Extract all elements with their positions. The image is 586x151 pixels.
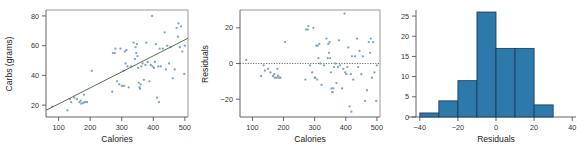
scatter-point	[180, 25, 182, 27]
y-tick-label: 20	[401, 32, 409, 41]
x-tick-label: 400	[340, 123, 352, 132]
scatter-point	[126, 65, 128, 67]
histogram-y-ticks: 0510152025	[401, 12, 416, 122]
residual-point	[341, 87, 343, 89]
residual-point	[335, 82, 337, 84]
scatter-point	[83, 94, 85, 96]
scatter-point	[150, 64, 152, 66]
x-tick-label: 100	[53, 123, 65, 132]
residual-point	[371, 77, 373, 79]
residual-point	[304, 78, 306, 80]
scatter-point	[134, 46, 136, 48]
scatter-point	[183, 73, 185, 75]
scatter-point	[146, 61, 148, 63]
residual-point	[368, 41, 370, 43]
scatter-point	[123, 85, 125, 87]
scatter-point	[144, 64, 146, 66]
scatter-point	[140, 83, 142, 85]
scatter-point	[145, 42, 147, 44]
residual-point	[347, 46, 349, 48]
histogram-bars	[420, 12, 553, 117]
residual-point	[339, 64, 341, 66]
residual-point	[319, 62, 321, 64]
scatter-point	[177, 22, 179, 24]
scatter-x-ticks: 100200300400500	[53, 117, 191, 132]
residual-point	[369, 52, 371, 54]
residual-point	[332, 87, 334, 89]
residual-y-ticks: −20020	[221, 23, 240, 103]
residual-point	[346, 66, 348, 68]
scatter-x-axis-title: Calories	[101, 134, 133, 144]
histogram-bar	[534, 105, 553, 117]
panel-scatter-carbs-vs-calories: 20406080 100200300400500 Carbs (grams) C…	[0, 0, 196, 151]
x-tick-label: 100	[246, 123, 258, 132]
residual-point	[328, 52, 330, 54]
residual-point	[312, 27, 314, 29]
residual-point	[332, 91, 334, 93]
scatter-point	[119, 47, 121, 49]
x-tick-label: 300	[309, 123, 321, 132]
scatter-point	[175, 27, 177, 29]
residual-point	[267, 68, 269, 70]
scatter-point	[136, 43, 138, 45]
residual-y-axis-title: Residuals	[200, 45, 210, 83]
residual-point	[348, 105, 350, 107]
scatter-point	[80, 100, 82, 102]
residual-point	[333, 66, 335, 68]
scatter-point	[160, 65, 162, 67]
histogram-bar	[420, 113, 439, 117]
scatter-point	[172, 77, 174, 79]
histogram-bar	[458, 81, 477, 117]
y-tick-label: 15	[401, 52, 409, 61]
residual-data-points	[245, 12, 378, 112]
residual-point	[337, 66, 339, 68]
y-tick-label: 20	[225, 23, 233, 32]
scatter-point	[158, 47, 160, 49]
scatter-point	[143, 79, 145, 81]
scatter-point	[140, 65, 142, 67]
residual-x-axis-title: Calories	[294, 134, 326, 144]
scatter-point	[181, 50, 183, 52]
scatter-point	[125, 49, 127, 51]
x-tick-label: 20	[530, 123, 538, 132]
residual-point	[279, 77, 281, 79]
scatter-point	[151, 15, 153, 17]
panel-residuals-vs-calories: −20020 100200300400500 Residuals Calorie…	[196, 0, 386, 151]
scatter-point	[148, 80, 150, 82]
scatter-plot-frame	[46, 10, 188, 117]
residual-point	[350, 73, 352, 75]
scatter-point	[138, 82, 140, 84]
scatter-point	[139, 88, 141, 90]
histogram-bar	[515, 48, 534, 117]
residual-point	[352, 78, 354, 80]
residual-point	[316, 78, 318, 80]
scatter-point	[116, 80, 118, 82]
residual-point	[345, 73, 347, 75]
x-tick-label: −40	[414, 123, 426, 132]
scatter-point	[114, 52, 116, 54]
residual-point	[327, 57, 329, 59]
y-tick-label: 0	[229, 59, 233, 68]
x-tick-label: 500	[179, 123, 191, 132]
scatter-point	[157, 65, 159, 67]
scatter-point	[141, 62, 143, 64]
residual-point	[307, 25, 309, 27]
residual-point	[350, 111, 352, 113]
residual-point	[366, 89, 368, 91]
residual-point	[351, 55, 353, 57]
residual-point	[358, 50, 360, 52]
scatter-point	[70, 101, 72, 103]
residual-point	[375, 100, 377, 102]
residual-point	[370, 37, 372, 39]
histogram-bar	[496, 48, 515, 117]
scatter-point	[158, 101, 160, 103]
x-tick-label: 400	[147, 123, 159, 132]
histogram-bar	[477, 12, 496, 117]
scatter-point	[174, 68, 176, 70]
panel-residual-histogram: 0510152025 −40−2002040 Residuals	[386, 0, 586, 151]
scatter-y-axis-title: Carbs (grams)	[4, 36, 14, 91]
residual-point	[364, 100, 366, 102]
scatter-point	[114, 47, 116, 49]
residual-point	[356, 37, 358, 39]
scatter-point	[165, 68, 167, 70]
